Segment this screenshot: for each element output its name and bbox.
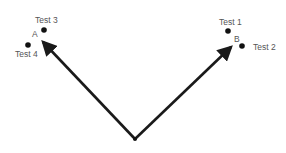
point-test-3 <box>41 27 47 33</box>
point-label-test-4: Test 4 <box>15 49 38 59</box>
point-label-test-2: Test 2 <box>253 42 276 52</box>
origin-point <box>133 137 137 141</box>
point-test-4 <box>25 42 31 48</box>
point-test-1 <box>225 28 231 34</box>
vector-diagram: A B Test 1 Test 2 Test 3 Test 4 <box>0 0 286 153</box>
arrow-b <box>135 47 231 139</box>
point-test-2 <box>239 43 245 49</box>
arrow-label-a: A <box>32 29 38 39</box>
arrow-label-b: B <box>234 34 240 44</box>
point-label-test-1: Test 1 <box>219 17 242 27</box>
point-label-test-3: Test 3 <box>35 15 58 25</box>
arrow-a <box>43 42 135 139</box>
